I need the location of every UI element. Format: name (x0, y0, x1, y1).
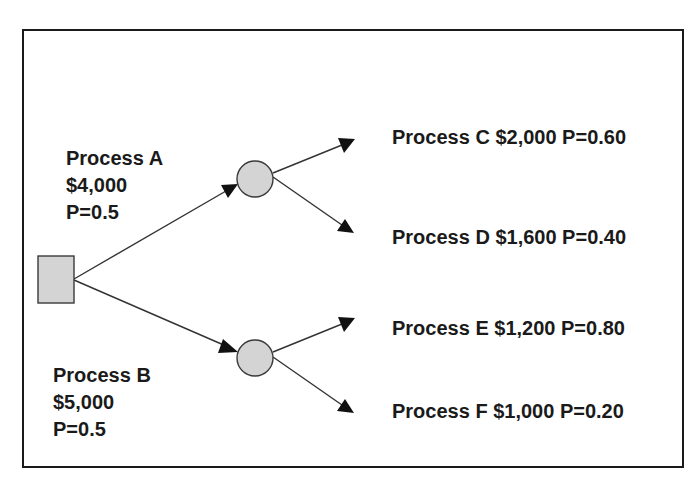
edge-to-process-f (273, 357, 354, 413)
edge-to-process-c (273, 138, 355, 173)
arrowhead-icon (221, 184, 238, 198)
decision-square-icon (38, 256, 74, 303)
branch-probability: P=0.5 (53, 416, 151, 443)
edge-to-process-e (273, 317, 355, 352)
branch-label-process-b: Process B $5,000 P=0.5 (53, 362, 151, 443)
arrowhead-icon (218, 339, 238, 353)
arrowhead-icon (337, 399, 354, 413)
edge-to-process-d (273, 177, 354, 233)
chance-circle-icon-b (237, 340, 273, 376)
outcome-label-process-e: Process E $1,200 P=0.80 (392, 315, 625, 342)
edge-to-process-b (74, 280, 238, 353)
branch-probability: P=0.5 (66, 199, 163, 226)
branch-name: Process B (53, 362, 151, 389)
branch-cost: $4,000 (66, 172, 163, 199)
outcome-label-process-f: Process F $1,000 P=0.20 (392, 398, 624, 425)
branch-label-process-a: Process A $4,000 P=0.5 (66, 145, 163, 226)
outcome-label-process-d: Process D $1,600 P=0.40 (392, 224, 626, 251)
chance-circle-icon-a (237, 161, 273, 197)
branch-cost: $5,000 (53, 389, 151, 416)
arrowhead-icon (337, 219, 354, 233)
outcome-label-process-c: Process C $2,000 P=0.60 (392, 124, 626, 151)
branch-name: Process A (66, 145, 163, 172)
